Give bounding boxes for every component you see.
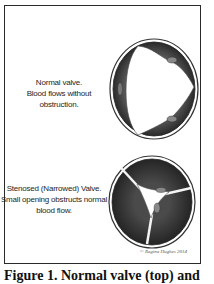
stenosed-valve-label: Stenosed (Narrowed) Valve. Small opening… [0,183,108,216]
stenosed-valve-illustration [107,154,197,250]
artist-signature: © Regina Hughes 2014 [140,249,200,254]
normal-valve-label: Normal valve. Blood flows without obstru… [8,77,110,110]
normal-valve-label-line-1: Normal valve. [8,77,110,88]
stenosed-valve-label-line-3: blood flow. [0,205,108,216]
stenosed-valve-label-line-1: Stenosed (Narrowed) Valve. [0,183,108,194]
stenosed-valve-label-line-2: Small opening obstructs normal [0,194,108,205]
normal-valve-illustration [108,37,200,142]
normal-valve-label-line-2: Blood flows without obstruction. [8,88,110,110]
figure-caption: Figure 1. Normal valve (top) and [4,268,214,284]
